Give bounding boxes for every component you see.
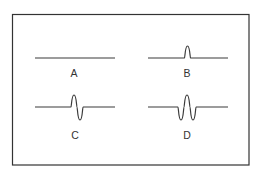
panel-d: D (148, 95, 228, 141)
label-a: A (70, 67, 77, 79)
waveform-c (35, 95, 115, 120)
diagram-frame (13, 15, 250, 166)
label-d: D (183, 129, 191, 141)
panel-b: B (148, 46, 228, 79)
panel-a: A (35, 58, 115, 79)
waveform-d (148, 95, 228, 120)
waveform-diagram: A B C D (0, 0, 259, 174)
waveform-b (148, 46, 228, 58)
panel-c: C (35, 95, 115, 141)
label-c: C (71, 129, 79, 141)
label-b: B (183, 67, 190, 79)
